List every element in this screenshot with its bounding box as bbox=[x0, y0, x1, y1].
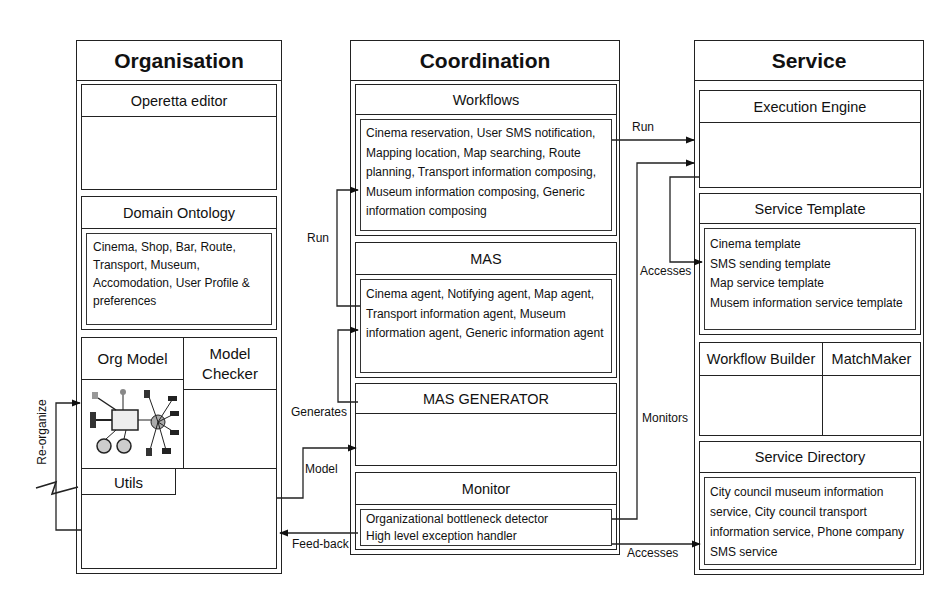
service-template-label: Service Template bbox=[700, 194, 920, 224]
monitor-panel[interactable]: Monitor Organizational bottleneck detect… bbox=[355, 472, 617, 550]
domain-ontology-content: Cinema, Shop, Bar, Route, Transport, Mus… bbox=[86, 233, 272, 325]
execution-engine-label: Execution Engine bbox=[700, 91, 920, 123]
reorganize-label: Re-organize bbox=[35, 392, 49, 472]
monitor-item-exception-handler: High level exception handler bbox=[366, 528, 606, 545]
monitor-label: Monitor bbox=[356, 473, 616, 505]
service-directory-label: Service Directory bbox=[700, 442, 920, 473]
org-model-diagram-icon bbox=[86, 384, 180, 464]
model-checker-panel[interactable]: Model Checker bbox=[183, 337, 277, 469]
mas-generator-panel[interactable]: MAS GENERATOR bbox=[355, 383, 617, 466]
template-item-cinema: Cinema template bbox=[710, 235, 910, 255]
matchmaker-panel[interactable]: MatchMaker bbox=[822, 342, 921, 436]
feedback-label: Feed-back bbox=[292, 537, 349, 551]
service-title: Service bbox=[695, 41, 923, 81]
model-checker-label: Model Checker bbox=[184, 338, 276, 390]
coordination-title: Coordination bbox=[351, 41, 619, 81]
operetta-editor-panel[interactable]: Operetta editor bbox=[81, 84, 277, 190]
service-column: Service Execution Engine Service Templat… bbox=[694, 40, 924, 575]
service-directory-panel[interactable]: Service Directory City council museum in… bbox=[699, 441, 921, 570]
workflow-builder-label: Workflow Builder bbox=[700, 343, 822, 376]
template-item-sms-sending: SMS sending template bbox=[710, 255, 910, 275]
utils-label: Utils bbox=[82, 469, 175, 495]
matchmaker-label: MatchMaker bbox=[823, 343, 920, 376]
organisation-column: Organisation Operetta editor Domain Onto… bbox=[76, 40, 282, 574]
domain-ontology-label: Domain Ontology bbox=[82, 197, 276, 229]
service-template-panel[interactable]: Service Template Cinema template SMS sen… bbox=[699, 193, 921, 335]
service-template-content: Cinema template SMS sending template Map… bbox=[704, 228, 916, 330]
run-label-execution: Run bbox=[632, 120, 654, 134]
accesses-label-directory: Accesses bbox=[627, 546, 678, 560]
workflows-label: Workflows bbox=[356, 85, 616, 115]
coordination-column: Coordination Workflows Cinema reservatio… bbox=[350, 40, 620, 555]
workflow-builder-panel[interactable]: Workflow Builder bbox=[699, 342, 823, 436]
generates-label: Generates bbox=[291, 405, 347, 419]
organisation-title: Organisation bbox=[77, 41, 281, 81]
monitor-content: Organizational bottleneck detector High … bbox=[360, 509, 612, 546]
mas-content: Cinema agent, Notifying agent, Map agent… bbox=[360, 279, 612, 373]
mas-label: MAS bbox=[356, 243, 616, 275]
monitors-label: Monitors bbox=[642, 411, 688, 425]
accesses-label-template: Accesses bbox=[640, 264, 691, 278]
org-model-label: Org Model bbox=[82, 338, 183, 380]
operetta-editor-label: Operetta editor bbox=[82, 85, 276, 117]
utils-tab[interactable]: Utils bbox=[81, 468, 176, 495]
workflows-panel[interactable]: Workflows Cinema reservation, User SMS n… bbox=[355, 84, 617, 236]
workflows-content: Cinema reservation, User SMS notificatio… bbox=[360, 119, 612, 231]
monitor-item-bottleneck-detector: Organizational bottleneck detector bbox=[366, 511, 606, 528]
service-directory-content: City council museum information service,… bbox=[704, 477, 916, 565]
model-label: Model bbox=[305, 462, 338, 476]
org-model-panel[interactable]: Org Model bbox=[81, 337, 184, 469]
mas-panel[interactable]: MAS Cinema agent, Notifying agent, Map a… bbox=[355, 242, 617, 378]
template-item-map-service: Map service template bbox=[710, 274, 910, 294]
execution-engine-panel[interactable]: Execution Engine bbox=[699, 90, 921, 188]
domain-ontology-panel[interactable]: Domain Ontology Cinema, Shop, Bar, Route… bbox=[81, 196, 277, 330]
run-label-mas: Run bbox=[307, 231, 329, 245]
mas-generator-label: MAS GENERATOR bbox=[356, 384, 616, 414]
template-item-museum-information: Musem information service template bbox=[710, 294, 910, 314]
